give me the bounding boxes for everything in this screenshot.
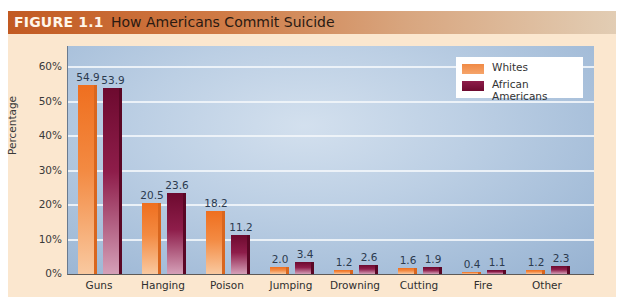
bar-value-label: 2.6 [354,251,384,263]
bar-african-americans-cutting [423,267,442,274]
bar-whites-guns [78,85,97,274]
legend-label-whites: Whites [492,61,528,73]
figure-title-bar: FIGURE 1.1 How Americans Commit Suicide [8,11,616,34]
bar-value-label: 1.1 [482,256,512,268]
bar-african-americans-hanging [167,193,186,274]
bar-whites-cutting [398,268,417,274]
legend: Whites African Americans [456,57,583,98]
x-category-label: Other [515,279,579,291]
y-tick-label: 20% [22,198,62,210]
x-category-label: Fire [451,279,515,291]
y-tick-label: 40% [22,129,62,141]
plot-area: 54.953.920.523.618.211.22.03.41.22.61.61… [67,46,594,275]
x-category-label: Hanging [131,279,195,291]
bar-whites-jumping [270,267,289,274]
bar-value-label: 2.3 [546,252,576,264]
y-tick-label: 0% [22,267,62,279]
bar-value-label: 18.2 [201,197,231,209]
y-axis-label: Percentage [6,96,18,155]
legend-label-african-americans: African Americans [492,78,583,102]
bar-value-label: 23.6 [162,179,192,191]
bar-african-americans-fire [487,270,506,274]
bar-whites-fire [462,272,481,275]
bar-value-label: 20.5 [137,189,167,201]
x-category-label: Poison [195,279,259,291]
bar-value-label: 53.9 [98,74,128,86]
x-category-label: Drowning [323,279,387,291]
y-tick-label: 50% [22,95,62,107]
bar-african-americans-drowning [359,265,378,274]
gridline [68,170,594,172]
bar-whites-drowning [334,270,353,274]
bar-african-americans-guns [103,88,122,274]
bar-whites-hanging [142,203,161,274]
y-tick-label: 60% [22,60,62,72]
bar-african-americans-jumping [295,262,314,274]
x-category-label: Jumping [259,279,323,291]
y-tick-label: 10% [22,233,62,245]
bar-value-label: 1.9 [418,253,448,265]
chart-title: How Americans Commit Suicide [111,14,335,30]
bar-african-americans-poison [231,235,250,274]
legend-swatch-whites [462,64,484,74]
figure-label: FIGURE 1.1 [14,14,104,30]
bar-value-label: 11.2 [226,221,256,233]
y-tick-label: 30% [22,164,62,176]
bar-whites-other [526,270,545,274]
bar-african-americans-other [551,266,570,274]
legend-swatch-african-americans [462,81,484,91]
bar-whites-poison [206,211,225,274]
bar-value-label: 3.4 [290,248,320,260]
x-category-label: Cutting [387,279,451,291]
gridline [68,135,594,137]
x-category-label: Guns [67,279,131,291]
